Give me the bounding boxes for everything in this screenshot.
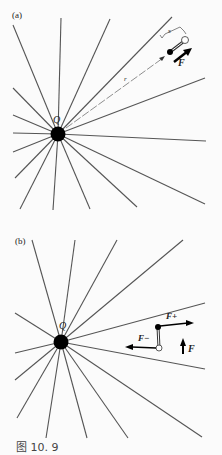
force-plus-label: F+ xyxy=(166,311,177,321)
dipole-b xyxy=(155,324,162,351)
distance-r-arrow xyxy=(66,56,165,128)
charge-b-label: Q xyxy=(59,320,66,331)
separation-label: s xyxy=(168,27,171,35)
panel-b-field-lines xyxy=(15,240,205,438)
figure-caption: 图 10. 9 xyxy=(16,438,59,454)
charge-q-b xyxy=(54,335,69,350)
distance-label: r xyxy=(124,75,127,83)
charge-a-label: Q xyxy=(53,114,60,125)
net-force-label: F xyxy=(188,343,195,354)
charge-q-a xyxy=(51,127,66,142)
panel-a-label: (a) xyxy=(12,10,22,20)
force-minus-label: F− xyxy=(138,333,149,343)
field-lines-diagram xyxy=(0,0,222,455)
force-minus-arrow xyxy=(125,344,156,350)
panel-b-label: (b) xyxy=(15,236,26,246)
figure-10-9: (a) Q r s F (b) Q F+ F− F 图 10. 9 xyxy=(0,0,222,455)
force-a-label: F xyxy=(178,57,185,68)
net-force-arrow xyxy=(180,338,186,354)
